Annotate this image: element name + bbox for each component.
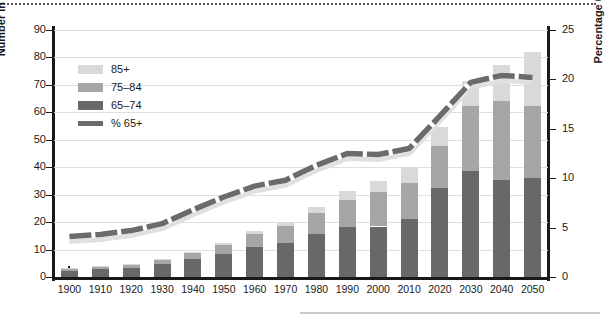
legend-color-swatch-icon <box>78 83 103 92</box>
legend-item[interactable]: 75–84 <box>78 80 143 95</box>
legend-item-label: 65–74 <box>111 100 142 111</box>
legend-item[interactable]: 65–74 <box>78 98 143 113</box>
percent-65-plus-line <box>0 0 608 318</box>
legend-color-swatch-icon <box>78 65 103 74</box>
legend-item-label: 75–84 <box>111 82 142 93</box>
legend-item[interactable]: % 65+ <box>78 116 143 131</box>
chart-legend: 85+75–8465–74% 65+ <box>78 62 143 134</box>
chart-figure: Number in millions (bars) Percentage 65 … <box>0 0 608 318</box>
legend-item-label: 85+ <box>111 64 130 75</box>
legend-color-swatch-icon <box>78 101 103 110</box>
legend-item[interactable]: 85+ <box>78 62 143 77</box>
legend-line-swatch-icon <box>78 121 103 126</box>
legend-item-label: % 65+ <box>111 118 143 129</box>
